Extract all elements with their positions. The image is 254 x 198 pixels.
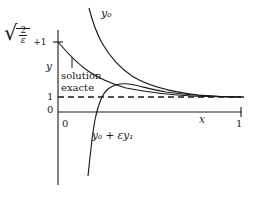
y-axis-top-tick-label: √ 2 ε +1 — [4, 25, 46, 48]
fraction-numerator: 2 — [19, 26, 27, 35]
label-solution-exacte-line1: solution — [61, 71, 101, 81]
fraction-denominator: ε — [19, 35, 27, 45]
y-tick-label-zero: 0 — [47, 105, 53, 115]
y-tick-label-one: 1 — [47, 92, 53, 102]
radical-group: √ 2 ε — [4, 25, 30, 48]
perturbation-figure: √ 2 ε +1 y₀ y₀ + εy₁ solution exacte y x… — [0, 0, 254, 198]
x-tick-label-one: 1 — [236, 119, 242, 129]
label-y0: y₀ — [101, 8, 112, 19]
radical-sign: √ — [4, 25, 17, 42]
label-y0-plus-eps-y1: y₀ + εy₁ — [92, 130, 133, 141]
fraction-two-over-epsilon: 2 ε — [16, 28, 30, 48]
x-axis-label: x — [199, 114, 205, 125]
x-tick-label-zero: 0 — [62, 119, 68, 129]
label-solution-exacte-line2: exacte — [61, 83, 94, 93]
y-axis-label: y — [46, 61, 52, 72]
addend-plus-one: +1 — [33, 38, 46, 47]
